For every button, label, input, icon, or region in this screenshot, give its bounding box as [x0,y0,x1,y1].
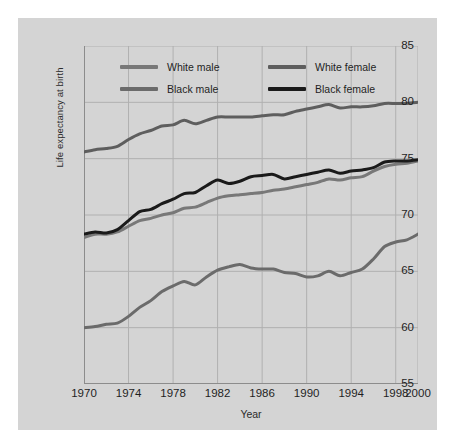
x-axis-title: Year [84,408,418,420]
plot-area: 55606570758085 1970197419781982198619901… [84,46,418,384]
y-tick-label: 65 [374,265,414,277]
legend-label: White female [315,61,376,73]
legend-swatch-icon [268,65,306,69]
y-tick-label: 75 [374,153,414,165]
y-tick-label: 85 [374,40,414,52]
legend-item: Black female [268,80,375,98]
y-tick-label: 60 [374,322,414,334]
legend-swatch-icon [120,87,158,91]
legend-swatch-icon [268,87,306,91]
y-axis-title: Life expectancy at birth [54,43,65,193]
chart-legend: White maleWhite femaleBlack maleBlack fe… [120,58,388,102]
legend-item: White male [120,58,220,76]
chart-figure: Life expectancy at birth 55606570758085 … [18,18,437,430]
legend-item: White female [268,58,376,76]
x-tick-label: 2000 [388,388,448,400]
legend-swatch-icon [120,65,158,69]
legend-label: Black female [315,83,375,95]
legend-label: White male [167,61,220,73]
y-tick-label: 70 [374,209,414,221]
legend-item: Black male [120,80,218,98]
legend-label: Black male [167,83,218,95]
